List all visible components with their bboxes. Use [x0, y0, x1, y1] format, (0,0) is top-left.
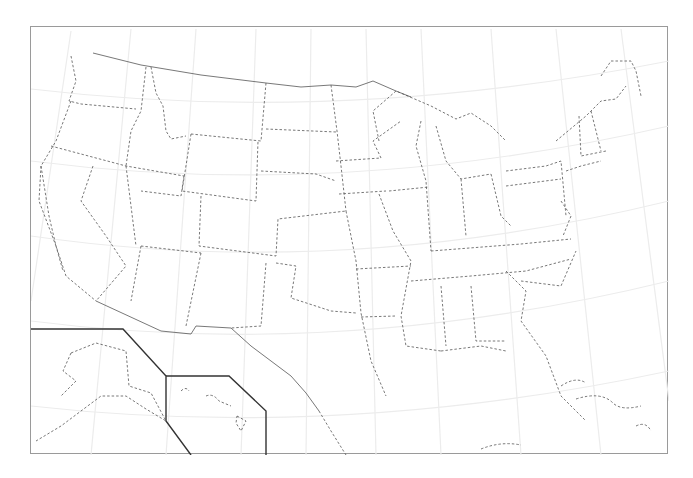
us-map [31, 27, 669, 455]
mexico-border [96, 301, 319, 411]
canada-border [93, 53, 411, 97]
hawaii-inset [166, 376, 266, 455]
map-frame [30, 26, 668, 454]
graticule [31, 29, 669, 455]
state-boundaries [39, 56, 641, 455]
